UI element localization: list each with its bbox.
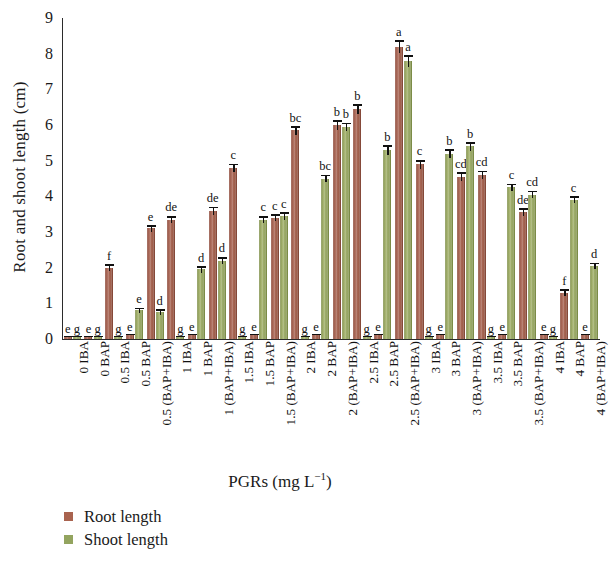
shoot-length-bar (404, 61, 412, 339)
x-axis-tick-label: 2.5 IBA (367, 341, 380, 384)
error-bar (560, 289, 569, 295)
shoot-length-bar (197, 269, 205, 339)
bar-group: bg (352, 18, 373, 339)
error-bar (229, 164, 238, 172)
error-bar (487, 336, 496, 338)
bar-group: cdg (476, 18, 497, 339)
error-bar (271, 214, 280, 221)
x-axis-tick-label: 1 IBA (180, 341, 193, 374)
error-bar (363, 336, 372, 338)
shoot-length-bar (425, 337, 433, 339)
error-bar (73, 336, 82, 338)
root-length-bar (457, 177, 465, 339)
bar-group: cdb (455, 18, 476, 339)
x-axis-tick-label: 2 BAP (325, 341, 338, 377)
chart-canvas: Root and shoot length (cm) 0123456789 eg… (0, 0, 609, 572)
x-axis-tick-label: 2.5 (BAP+IBA) (408, 341, 421, 425)
x-axis-tick-label: 1.5 (BAP+IBA) (284, 341, 297, 425)
bar-group: decd (517, 18, 538, 339)
error-bar-stem (523, 208, 524, 216)
error-bar-cap (301, 336, 310, 338)
bar-group: ded (207, 18, 228, 339)
root-length-bar (291, 130, 299, 339)
shoot-length-bar (301, 337, 309, 339)
shoot-length-bar (383, 150, 391, 339)
error-bar-cap (73, 336, 82, 338)
legend-label-root-length: Root length (84, 505, 161, 528)
root-length-bar (64, 337, 72, 339)
root-length-bar (147, 228, 155, 339)
bar-group: ec (248, 18, 269, 339)
error-bar-stem (151, 225, 152, 231)
error-bar (549, 336, 558, 338)
root-length-bar (436, 335, 444, 339)
bar-group: deg (165, 18, 186, 339)
error-bar-stem (594, 263, 595, 269)
x-axis-tick-label: 0 BAP (98, 341, 111, 377)
bar-group: eb (434, 18, 455, 339)
root-length-bar (333, 125, 341, 339)
significance-letter: c (411, 145, 429, 157)
x-axis-tick-label: 1 (BAP+IBA) (222, 341, 235, 415)
shoot-length-bar (259, 220, 267, 339)
error-bar-cap (114, 336, 123, 338)
bar-group: ee (124, 18, 145, 339)
error-bar-cap (238, 336, 247, 338)
shoot-length-bar (114, 337, 122, 339)
error-bar (333, 120, 342, 129)
error-bar-stem (511, 184, 512, 192)
root-length-bar (498, 335, 506, 339)
error-bar-stem (470, 142, 471, 151)
shoot-length-bar (570, 200, 578, 339)
error-bar-stem (325, 175, 326, 183)
error-bar (498, 334, 507, 336)
error-bar (84, 336, 93, 338)
error-bar-stem (357, 104, 358, 113)
error-bar (301, 336, 310, 338)
error-bar-stem (160, 309, 161, 315)
error-bar (570, 196, 579, 203)
significance-letter: a (390, 26, 408, 38)
x-axis-tick-label: 2 IBA (304, 341, 317, 374)
error-bar (94, 336, 103, 338)
error-bar-stem (109, 264, 110, 270)
significance-letter: c (224, 149, 242, 161)
bar-group: eb (372, 18, 393, 339)
error-bar (250, 334, 259, 336)
significance-letter: f (100, 250, 118, 262)
shoot-length-bar (466, 146, 474, 339)
error-bar (280, 212, 289, 219)
shoot-length-bar (342, 127, 350, 339)
shoot-length-bar (280, 216, 288, 339)
legend-item-shoot-length: Shoot length (64, 528, 168, 551)
legend-swatch-shoot-length (64, 535, 73, 544)
root-length-bar (519, 212, 527, 339)
shoot-length-bar (73, 337, 81, 339)
error-bar-stem (275, 214, 276, 221)
error-bar (404, 55, 413, 66)
x-axis-tick-label: 0.5 IBA (118, 341, 131, 384)
root-length-bar (271, 218, 279, 339)
y-axis-tick-labels: 0123456789 (0, 0, 62, 340)
error-bar (383, 145, 392, 154)
error-bar (156, 309, 165, 315)
legend-swatch-root-length (64, 512, 73, 521)
x-axis-tick-label: 3 (BAP+IBA) (470, 341, 483, 415)
error-bar-cap (126, 334, 135, 336)
chart-legend: Root length Shoot length (64, 505, 168, 551)
x-axis-tick-label: 3.5 (BAP+IBA) (532, 341, 545, 425)
y-axis-tick-0: 0 (27, 331, 53, 347)
y-axis-tick-2: 2 (27, 260, 53, 276)
error-bar (519, 208, 528, 216)
bar-group: eg (62, 18, 83, 339)
error-bar-cap (94, 336, 103, 338)
bar-group: ed (145, 18, 166, 339)
error-bar-stem (482, 171, 483, 180)
shoot-length-bar (445, 154, 453, 339)
bar-group: bb (331, 18, 352, 339)
error-bar-stem (337, 120, 338, 129)
error-bar-stem (449, 149, 450, 158)
error-bar-cap (581, 334, 590, 336)
shoot-length-bar (549, 337, 557, 339)
error-bar (581, 334, 590, 336)
